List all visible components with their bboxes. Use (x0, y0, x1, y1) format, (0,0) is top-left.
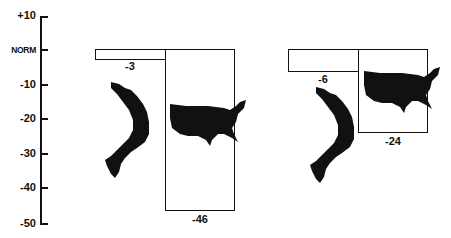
usa-map-icon (362, 67, 446, 117)
y-tick-label: -40 (20, 181, 36, 193)
y-tick-label: -20 (20, 112, 36, 124)
y-tick-label: -10 (20, 78, 36, 90)
bar-group2-japan (288, 49, 359, 72)
y-axis-line (40, 16, 42, 225)
y-tick-label: +10 (17, 9, 36, 21)
bar-label: -3 (95, 60, 165, 72)
bar-group1-japan (95, 49, 166, 60)
y-tick (40, 153, 48, 155)
japan-map-icon (308, 85, 363, 185)
y-tick (40, 118, 48, 120)
japan-map-icon (103, 80, 158, 180)
bar-label: -46 (165, 213, 235, 225)
y-tick (40, 187, 48, 189)
y-tick-label: NORM (11, 44, 36, 56)
y-tick (40, 16, 48, 18)
y-tick-label: -50 (20, 217, 36, 229)
y-tick (40, 84, 48, 86)
y-tick (40, 223, 48, 225)
usa-map-icon (168, 100, 252, 150)
y-tick-label: -30 (20, 147, 36, 159)
y-tick (40, 49, 48, 51)
bar-label: -6 (288, 73, 358, 85)
bar-label: -24 (358, 135, 428, 147)
